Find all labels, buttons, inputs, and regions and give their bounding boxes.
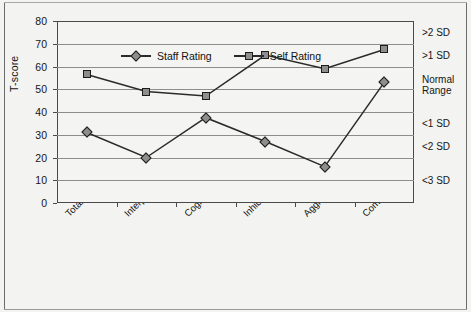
y-tick-label: 20 [23, 153, 47, 164]
y-tick-label: 80 [23, 16, 47, 27]
y-tick-mark [53, 203, 57, 204]
data-point-square-marker-icon [202, 92, 210, 100]
figure-border-right [466, 2, 467, 310]
legend-entry-self-rating: Self Rating [234, 50, 343, 62]
x-tick-mark [355, 203, 356, 207]
y-tick-label: 40 [23, 107, 47, 118]
y-tick-label: 10 [23, 175, 47, 186]
sd-band-label: >1 SD [422, 50, 450, 61]
figure-border-top [4, 2, 467, 3]
series-line-staff-rating [87, 82, 385, 166]
sd-band-label: <3 SD [422, 175, 450, 186]
legend-line-staff [121, 55, 151, 57]
y-tick-label: 60 [23, 62, 47, 73]
y-tick-label: 50 [23, 84, 47, 95]
data-point-square-marker-icon [321, 65, 329, 73]
square-marker-icon [245, 52, 253, 60]
legend-label-self-rating: Self Rating [270, 50, 321, 62]
sd-band-label: <1 SD [422, 118, 450, 129]
sd-band-label: >2 SD [422, 27, 450, 38]
y-tick-label: 0 [23, 198, 47, 209]
x-tick-mark [295, 203, 296, 207]
legend-label-staff-rating: Staff Rating [157, 50, 212, 62]
data-point-square-marker-icon [83, 70, 91, 78]
sd-band-label: Normal Range [422, 74, 454, 96]
diamond-marker-icon [130, 50, 141, 61]
legend-line-self [234, 55, 264, 57]
legend-entry-staff-rating: Staff Rating [121, 50, 234, 62]
x-tick-mark [117, 203, 118, 207]
plot-area: Staff Rating Self Rating [57, 21, 414, 203]
y-tick-label: 30 [23, 130, 47, 141]
y-axis-title: T-score [8, 56, 20, 92]
chart-legend: Staff Rating Self Rating [121, 47, 391, 65]
figure-border-bottom [4, 309, 467, 310]
sd-band-label: <2 SD [422, 141, 450, 152]
y-tick-label: 70 [23, 39, 47, 50]
x-tick-mark [176, 203, 177, 207]
chart-figure: T-score 01020304050607080 >2 SD>1 SDNorm… [0, 0, 471, 312]
x-tick-mark [236, 203, 237, 207]
figure-border-left [4, 2, 5, 310]
data-point-square-marker-icon [142, 88, 150, 96]
